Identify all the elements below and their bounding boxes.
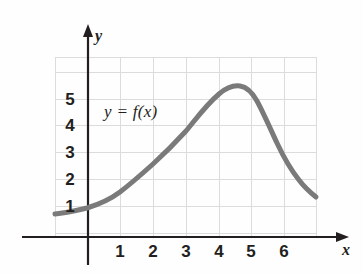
y-tick-label-4: 4 bbox=[62, 117, 78, 134]
y-tick-label-2: 2 bbox=[62, 171, 78, 188]
x-axis-name: x bbox=[342, 242, 350, 258]
x-tick-label-5: 5 bbox=[243, 243, 259, 260]
y-axis bbox=[83, 24, 93, 265]
x-tick-label-1: 1 bbox=[112, 243, 128, 260]
plot-canvas bbox=[0, 0, 363, 274]
y-tick-label-5: 5 bbox=[62, 91, 78, 108]
curve-equation-label: y = f(x) bbox=[104, 103, 158, 120]
x-tick-label-6: 6 bbox=[276, 243, 292, 260]
y-tick-label-3: 3 bbox=[62, 144, 78, 161]
function-graph-figure: 5 4 3 2 1 1 2 3 4 5 6 y x y = f(x) bbox=[0, 0, 363, 274]
y-axis-name: y bbox=[95, 28, 102, 44]
x-tick-label-2: 2 bbox=[145, 243, 161, 260]
x-tick-label-3: 3 bbox=[178, 243, 194, 260]
x-tick-label-4: 4 bbox=[211, 243, 227, 260]
y-tick-label-1: 1 bbox=[62, 198, 78, 215]
